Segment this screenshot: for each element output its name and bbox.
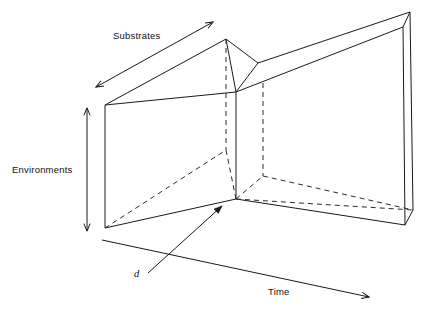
- right-plane-far-right-inner-vertical-edge: [403, 27, 405, 225]
- depth-dimension-label: d: [134, 268, 140, 279]
- substrates-axis-label: Substrates: [113, 30, 160, 41]
- substrates-axis-group: Substrates: [96, 22, 213, 87]
- depth-leader-group: d: [134, 206, 222, 279]
- left-plane-group: [105, 39, 258, 228]
- three-d-schematic-figure: Substrates Environments Time d: [0, 0, 425, 313]
- left-plane-top-surface-edge: [105, 39, 236, 105]
- right-cell-hidden-floor-back-edge: [236, 199, 413, 210]
- right-plane-top-ridge-upper-edge: [258, 12, 410, 63]
- left-cell-hidden-floor-diagonal: [105, 150, 226, 228]
- left-cell-hidden-floor-connector: [226, 150, 236, 199]
- right-cell-hidden-floor-diagonal: [236, 176, 263, 199]
- right-plane-bottom-endcap-edge: [405, 210, 413, 225]
- time-axis-group: Time: [102, 240, 369, 297]
- right-plane-top-ridge-lower-edge: [236, 27, 403, 92]
- time-axis-line: [102, 240, 369, 297]
- right-plane-far-right-outer-vertical-edge: [410, 12, 413, 210]
- diagram-canvas: Substrates Environments Time d: [0, 0, 425, 313]
- left-plane-front-face-edge: [105, 92, 236, 228]
- environments-axis-group: Environments: [12, 108, 87, 231]
- left-plane-peak-right-edge: [226, 39, 258, 63]
- environments-axis-label: Environments: [12, 164, 73, 175]
- time-axis-label: Time: [268, 286, 290, 297]
- right-plane-group: [236, 12, 413, 225]
